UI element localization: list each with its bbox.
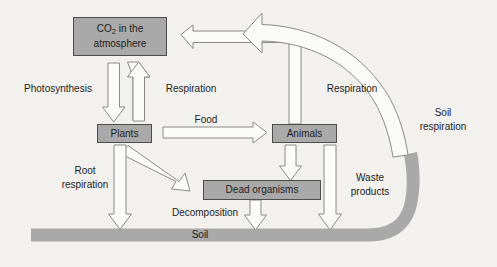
node-plants-label: Plants: [111, 128, 139, 139]
node-animals-label: Animals: [287, 128, 323, 139]
flow-label-soil-respiration-line2: respiration: [420, 121, 467, 132]
waste-products-arrow: [319, 145, 342, 230]
flow-label-waste-products-line1: Waste: [356, 172, 384, 183]
node-atmosphere-label-line2: atmosphere: [94, 38, 147, 49]
node-soil-label: Soil: [192, 229, 209, 240]
flow-label-respiration-animals: Respiration: [327, 83, 378, 94]
photosynthesis-arrow: [103, 63, 126, 122]
diagram-canvas: CO2 in the atmosphere Plants Animals Dea…: [0, 0, 497, 267]
node-dead-organisms-label: Dead organisms: [226, 184, 299, 195]
flow-label-soil-respiration-line1: Soil: [435, 107, 452, 118]
carbon-cycle-diagram: CO2 in the atmosphere Plants Animals Dea…: [0, 0, 497, 267]
flow-label-root-respiration-line1: Root: [74, 165, 95, 176]
flow-label-food: Food: [195, 114, 218, 125]
food-arrow: [163, 122, 267, 143]
animals-to-dead-organisms-arrow: [280, 145, 302, 181]
flow-label-root-respiration-line2: respiration: [62, 179, 109, 190]
node-atmosphere-label-line1: CO2 in the: [97, 23, 144, 36]
flow-label-photosynthesis: Photosynthesis: [24, 83, 92, 94]
flow-label-decomposition: Decomposition: [172, 207, 238, 218]
plants-to-dead-organisms-arrow: [120, 146, 190, 192]
decomposition-arrow: [245, 200, 267, 230]
flow-label-respiration-plants: Respiration: [166, 83, 217, 94]
flow-label-waste-products-line2: products: [351, 186, 389, 197]
